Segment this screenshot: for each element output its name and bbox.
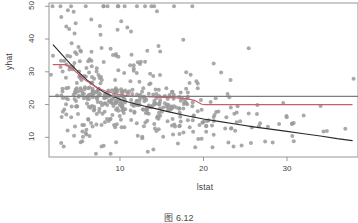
y-tick-label: 20 [27, 96, 36, 112]
axis-ticks [45, 6, 287, 161]
y-axis-label: yhat [4, 56, 14, 70]
y-tick-label: 30 [27, 63, 36, 79]
figure-caption: 图 6.12 [0, 212, 358, 223]
y-tick-label: 50 [27, 0, 36, 14]
figure-container: yhat lstat 1020304050102030 图 6.12 [0, 0, 358, 223]
x-tick-label: 10 [109, 164, 131, 173]
data-points-group [49, 4, 356, 155]
x-axis-label: lstat [175, 182, 235, 192]
y-tick-label: 40 [27, 31, 36, 47]
x-tick-label: 20 [193, 164, 215, 173]
x-tick-label: 30 [276, 164, 298, 173]
y-tick-label: 10 [27, 129, 36, 145]
